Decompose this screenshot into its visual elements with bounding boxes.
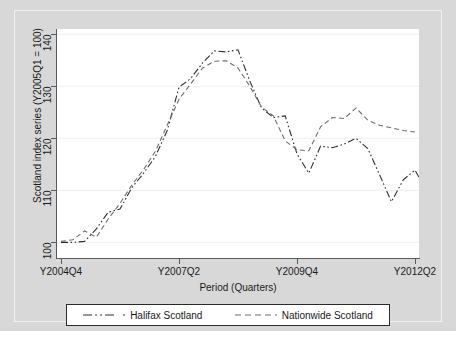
x-tick-label: Y2007Q2 bbox=[139, 266, 219, 277]
legend-label-halifax: Halifax Scotland bbox=[130, 310, 202, 321]
y-tick-label: 130 bbox=[43, 87, 54, 104]
legend-line-halifax bbox=[83, 310, 125, 320]
y-tick-label: 120 bbox=[43, 139, 54, 156]
y-tick-label-wrap: 100 bbox=[0, 237, 48, 247]
gridlines bbox=[57, 34, 419, 242]
x-tick-label: Y2012Q2 bbox=[375, 266, 455, 277]
legend-line-nationwide bbox=[235, 310, 277, 320]
y-axis-line bbox=[56, 29, 57, 259]
series-line-nationwide bbox=[61, 61, 415, 242]
x-axis-title: Period (Quarters) bbox=[57, 282, 419, 293]
series-line-halifax bbox=[61, 50, 419, 243]
chart-figure: 100110120130140 Y2004Q4Y2007Q2Y2009Q4Y20… bbox=[0, 0, 456, 351]
y-tick-label: 110 bbox=[43, 191, 54, 207]
y-tick-label: 140 bbox=[43, 35, 54, 52]
x-tick-mark bbox=[415, 259, 416, 264]
plot-svg bbox=[57, 29, 419, 258]
x-tick-label: Y2009Q4 bbox=[257, 266, 337, 277]
y-tick-label: 100 bbox=[43, 243, 54, 260]
plot-area bbox=[57, 29, 419, 258]
x-tick-mark bbox=[297, 259, 298, 264]
legend-item-nationwide: Nationwide Scotland bbox=[235, 310, 373, 321]
x-tick-mark bbox=[179, 259, 180, 264]
x-tick-label: Y2004Q4 bbox=[21, 266, 101, 277]
chart-legend: Halifax Scotland Nationwide Scotland bbox=[66, 304, 390, 326]
series-lines bbox=[61, 50, 419, 243]
legend-item-halifax: Halifax Scotland bbox=[83, 310, 202, 321]
legend-label-nationwide: Nationwide Scotland bbox=[282, 310, 373, 321]
x-axis-line bbox=[56, 258, 420, 259]
y-axis-title: Scotland index series (Y2005Q1 = 100) bbox=[32, 1, 43, 231]
x-tick-mark bbox=[61, 259, 62, 264]
